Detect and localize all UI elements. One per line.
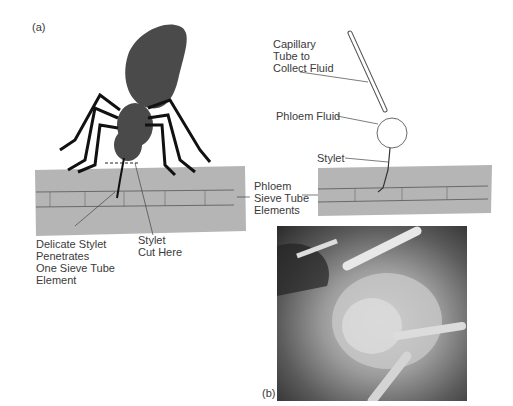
leader-phloem-fluid [337, 116, 378, 124]
phloem-droplet [377, 118, 407, 148]
label-phloem-fluid: Phloem Fluid [276, 110, 340, 122]
left-tissue [35, 166, 246, 236]
label-capillary: Capillary Tube to Collect Fluid [273, 38, 334, 74]
capillary-tube [350, 33, 385, 110]
label-phloem-sieve: Phloem Sieve Tube Elements [254, 180, 309, 216]
right-tissue [318, 165, 492, 216]
micrograph-shapes [277, 226, 467, 401]
leader-stylet-right [345, 158, 388, 162]
label-stylet: Stylet [317, 152, 345, 164]
label-delicate-stylet: Delicate Stylet Penetrates One Sieve Tub… [36, 238, 115, 286]
panel-a-label: (a) [32, 21, 45, 33]
sem-micrograph [277, 226, 467, 401]
panel-b-label: (b) [262, 387, 275, 399]
label-stylet-cut: Stylet Cut Here [138, 234, 182, 258]
